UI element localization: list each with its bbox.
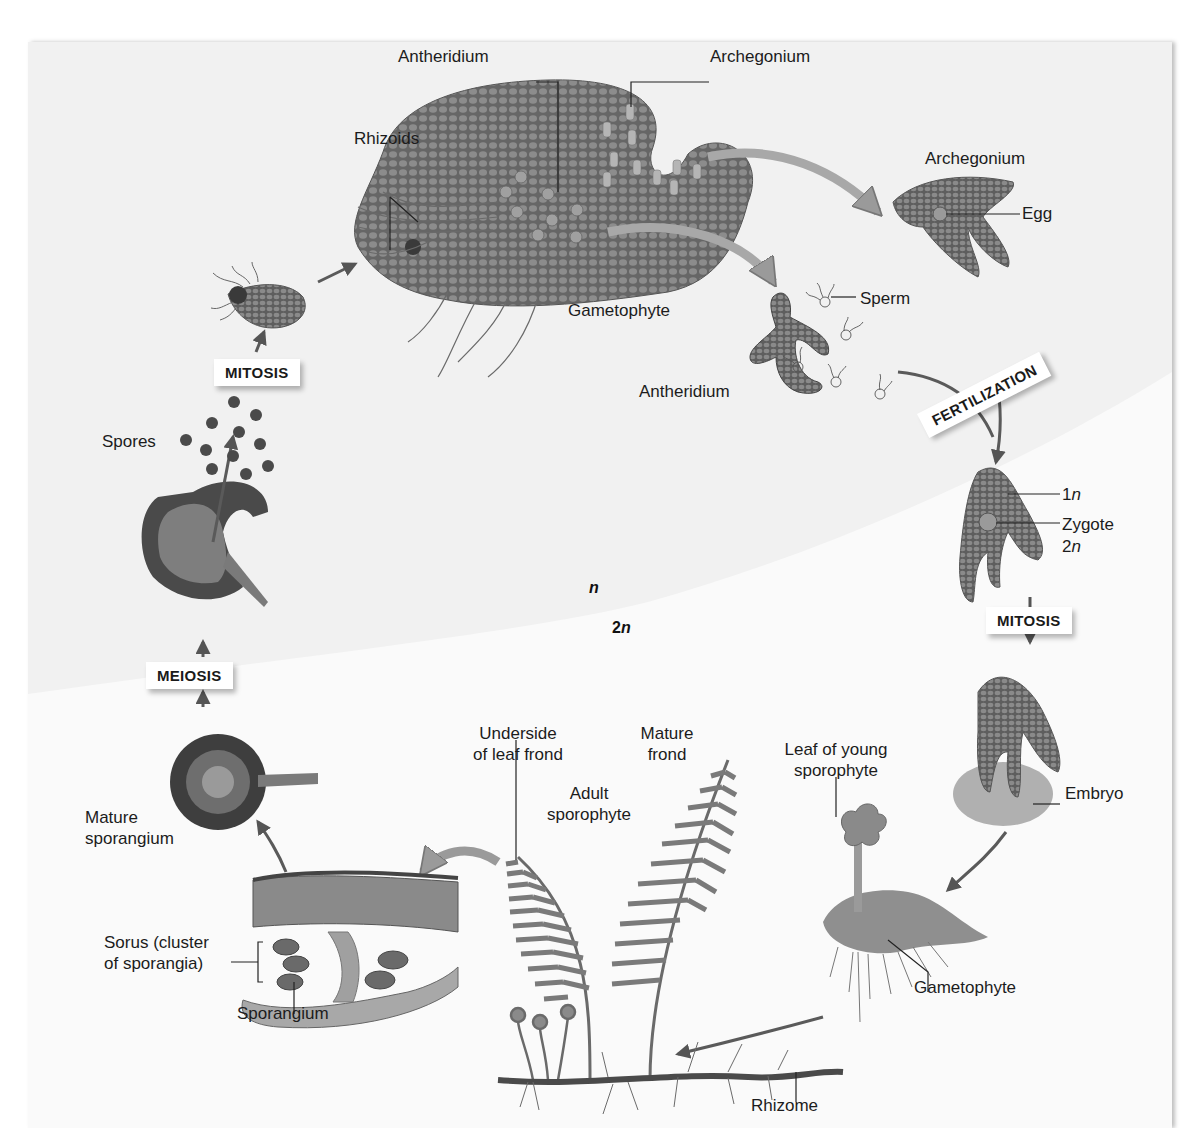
stage-meiosis: MEIOSIS	[146, 662, 233, 689]
label-archegonium-detail: Archegonium	[925, 148, 1025, 169]
label-sorus: Sorus (cluster of sporangia)	[104, 932, 209, 974]
stage-mitosis-right: MITOSIS	[986, 607, 1072, 634]
label-sorus-line2: of sporangia)	[104, 953, 209, 974]
label-2n-zygote: 2n	[1062, 536, 1081, 557]
label-archegonium-top: Archegonium	[710, 46, 810, 67]
diploid-number: 2	[612, 619, 621, 636]
label-underside-line1: Underside	[458, 723, 578, 744]
label-gametophyte-bottom: Gametophyte	[914, 977, 1016, 998]
haploid-n: n	[589, 579, 599, 596]
label-1n: 1n	[1062, 484, 1081, 505]
label-gametophyte-top: Gametophyte	[568, 300, 670, 321]
label-sperm: Sperm	[860, 288, 910, 309]
diploid-n: n	[621, 619, 631, 636]
label-adult-sporophyte-line1: Adult	[534, 783, 644, 804]
stage-mitosis-top: MITOSIS	[214, 359, 300, 386]
label-antheridium-top: Antheridium	[398, 46, 489, 67]
label-spores: Spores	[102, 431, 156, 452]
label-embryo: Embryo	[1065, 783, 1124, 804]
label-antheridium-detail: Antheridium	[639, 381, 730, 402]
label-mature-sporangium: Mature sporangium	[85, 807, 174, 849]
label-leaf-young-sporophyte-line2: sporophyte	[780, 760, 892, 781]
label-mature-frond-line2: frond	[632, 744, 702, 765]
label-underside-line2: of leaf frond	[458, 744, 578, 765]
label-rhizoids: Rhizoids	[354, 128, 419, 149]
haploid-region-label: n	[589, 579, 599, 597]
label-zygote: Zygote	[1062, 514, 1114, 535]
diploid-region-label: 2n	[612, 619, 631, 637]
label-leaf-young-sporophyte-line1: Leaf of young	[780, 739, 892, 760]
label-leaf-young-sporophyte: Leaf of young sporophyte	[780, 739, 892, 781]
label-1n-variable: n	[1071, 485, 1080, 504]
archegonium-detail-illustration	[893, 177, 1020, 277]
label-adult-sporophyte-line2: sporophyte	[534, 804, 644, 825]
label-underside-leaf-frond: Underside of leaf frond	[458, 723, 578, 765]
label-mature-sporangium-line1: Mature	[85, 807, 174, 828]
label-sorus-line1: Sorus (cluster	[104, 932, 209, 953]
label-rhizome: Rhizome	[751, 1095, 818, 1116]
germinating-spore-illustration	[211, 262, 355, 352]
label-adult-sporophyte: Adult sporophyte	[534, 783, 644, 825]
label-2n-variable: n	[1071, 537, 1080, 556]
diagram-panel: Antheridium Archegonium Rhizoids Gametop…	[28, 42, 1172, 1128]
label-egg: Egg	[1022, 203, 1052, 224]
label-mature-sporangium-line2: sporangium	[85, 828, 174, 849]
label-mature-frond: Mature frond	[632, 723, 702, 765]
label-mature-frond-line1: Mature	[632, 723, 702, 744]
label-sporangium: Sporangium	[237, 1003, 329, 1024]
